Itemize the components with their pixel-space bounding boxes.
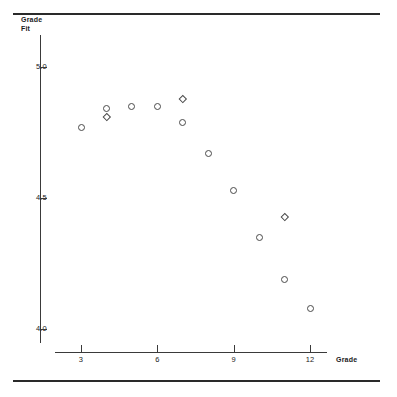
data-point-circle: [230, 187, 237, 194]
data-point-circle: [179, 119, 186, 126]
x-axis-title: Grade: [336, 355, 357, 364]
data-point-circle: [154, 103, 161, 110]
y-tick-mark: [40, 198, 47, 199]
x-tick-label-3: 3: [71, 355, 91, 364]
x-tick-mark: [157, 345, 158, 352]
x-tick-label-6: 6: [147, 355, 167, 364]
plot-area: Grade Fit Grade 5.04.54.0 36912: [0, 0, 397, 397]
data-point-circle: [281, 276, 288, 283]
data-point-circle: [78, 124, 85, 131]
y-tick-mark: [40, 329, 47, 330]
y-axis-line: [40, 35, 41, 343]
data-point-circle: [307, 305, 314, 312]
data-point-circle: [128, 103, 135, 110]
data-point-circle: [256, 234, 263, 241]
data-point-circle: [205, 150, 212, 157]
data-point-diamond: [102, 113, 110, 121]
x-tick-label-12: 12: [300, 355, 320, 364]
x-tick-mark: [81, 345, 82, 352]
y-axis-title: Grade Fit: [21, 15, 42, 33]
x-tick-mark: [234, 345, 235, 352]
x-tick-mark: [310, 345, 311, 352]
data-point-circle: [103, 105, 110, 112]
x-axis-line: [55, 352, 327, 353]
scatter-plot-figure: Grade Fit Grade 5.04.54.0 36912: [0, 0, 397, 397]
data-point-diamond: [281, 212, 289, 220]
data-point-diamond: [179, 94, 187, 102]
x-tick-label-9: 9: [224, 355, 244, 364]
y-tick-mark: [40, 67, 47, 68]
